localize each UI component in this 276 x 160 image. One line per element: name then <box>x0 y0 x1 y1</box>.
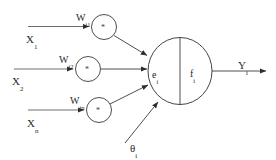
link-mult1-to-body <box>114 36 147 56</box>
diagram-vector-layer <box>0 0 276 160</box>
input-label-x1: X1 <box>26 30 37 49</box>
threshold-line <box>125 102 158 143</box>
threshold-label: θi <box>130 139 137 158</box>
neuron-body-left-label: ei <box>152 65 158 84</box>
multiplier-symbol-3: * <box>96 107 100 115</box>
weight-label-1: Wi1 <box>76 8 91 27</box>
neuron-diagram-canvas: * * * Wi1 Wi2 Win X1 X2 Xn ei fi θi Yi <box>0 0 276 160</box>
input-label-x2: X2 <box>12 72 23 91</box>
neuron-body-right-label: fi <box>190 64 195 83</box>
weight-label-2: Wi2 <box>59 50 74 69</box>
multiplier-symbol-1: * <box>101 24 105 32</box>
weight-label-3: Win <box>70 91 85 110</box>
link-mult3-to-body <box>110 85 148 104</box>
input-label-xn: Xn <box>27 114 38 133</box>
output-label: Yi <box>238 56 248 75</box>
multiplier-symbol-2: * <box>85 66 89 74</box>
